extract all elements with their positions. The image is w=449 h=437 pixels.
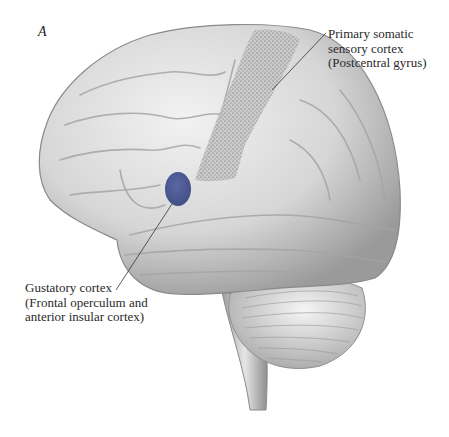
label-line: (Postcentral gyrus)	[328, 56, 427, 71]
label-line: (Frontal operculum and	[25, 296, 148, 311]
panel-letter: A	[38, 24, 47, 40]
label-line: Gustatory cortex	[25, 281, 148, 296]
label-line: anterior insular cortex)	[25, 310, 148, 325]
label-line: Primary somatic	[328, 27, 427, 42]
brain-figure: A Primary somatic sensory cortex (Postce…	[0, 0, 449, 437]
primary-somatic-label: Primary somatic sensory cortex (Postcent…	[328, 27, 427, 71]
gustatory-cortex-highlight	[165, 172, 191, 206]
label-line: sensory cortex	[328, 42, 427, 57]
gustatory-label: Gustatory cortex (Frontal operculum and …	[25, 281, 148, 325]
